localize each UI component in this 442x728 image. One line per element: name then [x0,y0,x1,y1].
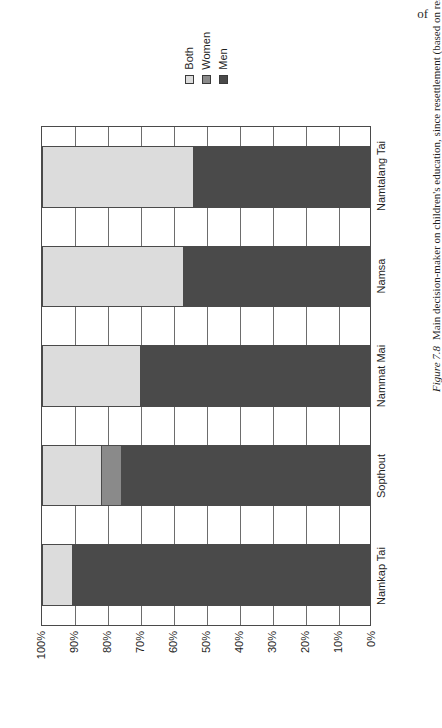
legend-swatch-icon [202,75,211,84]
category-axis: Namkap TaiSopthoutNammat MaiNamsaNamtala… [373,126,395,626]
figure-caption: Figure 7.8Main decision-maker on childre… [430,76,442,392]
bar-segment-both [42,544,72,606]
bar-stack [42,246,370,308]
bar-segment-both [42,345,140,407]
category-label: Namtalang Tai [375,141,387,211]
axis-tick-label: 100% [35,631,47,659]
bar-segment-men [193,146,370,208]
plot-frame [41,126,371,626]
legend-item-women: Women [200,32,212,84]
bar-segment-men [72,544,370,606]
legend-item-label: Women [200,32,212,70]
bar-stack [42,345,370,407]
legend-swatch-icon [219,75,228,84]
bars-layer [42,127,370,625]
bar-segment-both [42,246,183,308]
bar-segment-men [140,345,370,407]
bar-stack [42,146,370,208]
value-axis: 100%90%80%70%60%50%40%30%20%10%0% [41,628,371,668]
axis-tick-label: 70% [134,631,146,653]
axis-tick-label: 30% [266,631,278,653]
axis-tick-label: 50% [200,631,212,653]
running-head-fragment: of [417,6,428,22]
axis-tick-label: 0% [365,631,377,647]
category-label: Sopthout [375,454,387,498]
legend-item-label: Men [217,48,229,69]
axis-tick-label: 40% [233,631,245,653]
legend-item-both: Both [183,32,195,84]
category-label: Namsa [375,259,387,294]
chart-plot-area: BothWomenMen 100%90%80%70%60%50%40%30%20… [33,28,405,668]
bar-segment-men [183,246,370,308]
axis-tick-label: 60% [167,631,179,653]
legend-item-label: Both [183,47,195,70]
category-label: Namkap Tai [375,547,387,605]
bar-segment-women [101,445,121,507]
figure-number: Figure 7.8 [430,346,442,392]
bar-segment-men [121,445,370,507]
bar-segment-both [42,146,193,208]
bar-segment-both [42,445,101,507]
bar-stack [42,445,370,507]
axis-tick-label: 20% [299,631,311,653]
axis-tick-label: 90% [68,631,80,653]
legend-item-men: Men [217,32,229,84]
category-label: Nammat Mai [375,345,387,407]
chart-legend: BothWomenMen [183,32,229,84]
figure-caption-text: Main decision-maker on children's educat… [430,0,442,340]
rotated-chart-container: BothWomenMen 100%90%80%70%60%50%40%30%20… [33,28,405,668]
axis-tick-label: 10% [332,631,344,653]
bar-stack [42,544,370,606]
legend-swatch-icon [185,75,194,84]
axis-tick-label: 80% [101,631,113,653]
